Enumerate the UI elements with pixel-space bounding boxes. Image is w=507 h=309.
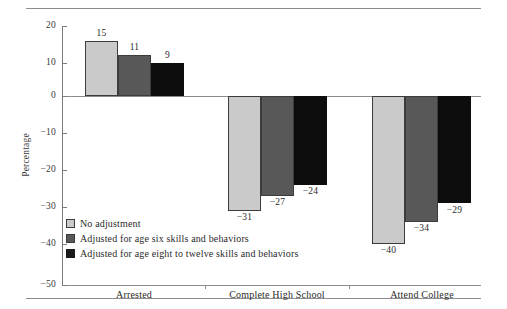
legend-swatch-icon-age-eight-twelve	[66, 249, 75, 258]
bar-college-no-adjustment	[372, 96, 405, 244]
x-category-label-arrested: Arrested	[94, 289, 174, 300]
bar-highschool-no-adjustment	[228, 96, 261, 211]
legend-label-age-six: Adjusted for age six skills and behavior…	[80, 233, 249, 244]
bar-value-label-college-age-eight-twelve: −29	[438, 205, 472, 215]
legend-label-age-eight-twelve: Adjusted for age eight to twelve skills …	[80, 248, 298, 259]
bar-value-label-college-age-six: −34	[405, 223, 439, 233]
bar-college-age-eight-twelve	[438, 96, 471, 203]
legend-item-age-eight-twelve: Adjusted for age eight to twelve skills …	[66, 246, 298, 260]
bar-arrested-age-eight-twelve	[151, 63, 184, 96]
bar-value-label-arrested-age-six: 11	[118, 42, 152, 52]
legend: No adjustment Adjusted for age six skill…	[66, 216, 298, 261]
y-tick-label-10: 10	[16, 58, 56, 68]
y-tick-label-20: 20	[16, 21, 56, 31]
legend-item-no-adjustment: No adjustment	[66, 216, 298, 230]
y-tick-mark	[62, 133, 67, 134]
bar-value-label-highschool-age-eight-twelve: −24	[294, 186, 328, 196]
legend-label-no-adjustment: No adjustment	[80, 218, 141, 229]
y-tick-label-neg40: −40	[16, 239, 56, 249]
y-tick-mark	[62, 170, 67, 171]
x-category-label-complete-high-school: Complete High School	[217, 289, 337, 300]
y-tick-label-neg50: −50	[16, 280, 56, 290]
bar-arrested-no-adjustment	[85, 41, 118, 97]
y-tick-mark	[62, 63, 67, 64]
y-tick-mark	[62, 207, 67, 208]
y-tick-label-0: 0	[16, 91, 56, 101]
y-axis-title: Percentage	[21, 115, 31, 195]
x-axis-baseline	[62, 285, 481, 286]
bar-highschool-age-eight-twelve	[294, 96, 327, 185]
legend-swatch-icon-age-six	[66, 234, 75, 243]
y-tick-mark	[62, 26, 67, 27]
bar-highschool-age-six	[261, 96, 294, 196]
x-tick-mark	[349, 285, 350, 289]
legend-swatch-icon-no-adjustment	[66, 219, 75, 228]
top-divider-rule	[26, 8, 481, 9]
x-tick-mark	[205, 285, 206, 289]
bar-college-age-six	[405, 96, 438, 222]
legend-item-age-six: Adjusted for age six skills and behavior…	[66, 231, 298, 245]
figure-container: 20 10 0 −10 −20 −30 −40 −50 Percentage 1…	[0, 0, 507, 309]
bar-arrested-age-six	[118, 55, 151, 96]
bar-value-label-arrested-age-eight-twelve: 9	[151, 50, 185, 60]
y-axis-line	[62, 26, 63, 286]
bar-value-label-highschool-age-six: −27	[261, 197, 295, 207]
y-tick-mark	[62, 96, 67, 97]
bar-value-label-arrested-no-adjustment: 15	[85, 28, 119, 38]
x-category-label-attend-college: Attend College	[367, 289, 477, 300]
y-tick-mark	[62, 285, 67, 286]
bar-value-label-college-no-adjustment: −40	[372, 245, 406, 255]
y-tick-label-neg30: −30	[16, 202, 56, 212]
